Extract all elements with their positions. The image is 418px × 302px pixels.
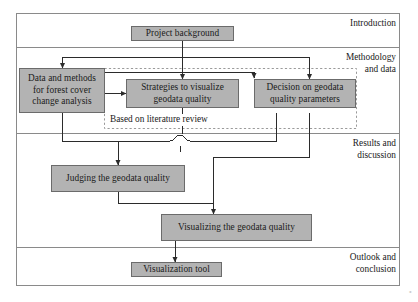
edge-strategies-to-decision — [105, 73, 255, 79]
node-visualizing-quality[interactable]: Visualizing the geodata quality — [161, 214, 312, 241]
node-decision-on-parameters[interactable]: Decision on geodata quality parameters — [254, 79, 356, 108]
phase-label-introduction: Introduction — [350, 18, 396, 30]
edge-judging-to-visualizing — [118, 192, 214, 214]
phase-label-methodology: Methodology and data — [346, 52, 396, 75]
phase-label-results: Results and discussion — [353, 138, 396, 161]
line-hop-marker — [170, 135, 190, 141]
node-data-and-methods[interactable]: Data and methods for forest cover change… — [19, 68, 105, 113]
node-visualization-tool[interactable]: Visualization tool — [131, 262, 222, 277]
diagram-outer-frame — [17, 14, 400, 286]
corner-mark: ⁺ — [409, 290, 412, 296]
literature-review-group-label: Based on literature review — [109, 114, 209, 126]
flowchart-diagram: Introduction Methodology and data Result… — [0, 0, 418, 302]
node-strategies-to-visualize[interactable]: Strategies to visualize geodata quality — [126, 79, 239, 108]
edge-decision-to-visualizing — [214, 113, 310, 166]
node-project-background[interactable]: Project background — [131, 26, 234, 41]
node-judging-quality[interactable]: Judging the geodata quality — [51, 165, 185, 192]
phase-label-outlook: Outlook and conclusion — [350, 252, 396, 275]
